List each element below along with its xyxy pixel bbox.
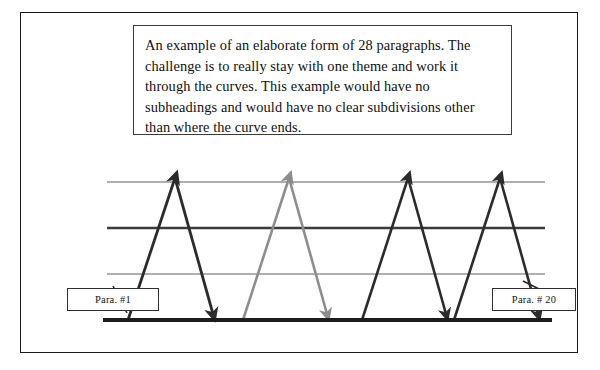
curve-2-group (243, 178, 327, 320)
guide-lines-group (107, 182, 545, 274)
curve-3-fall (408, 178, 446, 314)
curve-1-fall (175, 178, 213, 314)
callout-para-last: Para. # 20 (492, 288, 576, 311)
callout-right-label: Para. # 20 (512, 294, 556, 305)
curve-2-fall (289, 178, 327, 314)
curve-3-rise (362, 178, 408, 320)
caption-box: An example of an elaborate form of 28 pa… (133, 25, 512, 135)
curve-2-rise (243, 178, 289, 320)
caption-text: An example of an elaborate form of 28 pa… (145, 35, 500, 138)
curve-3-group (362, 178, 446, 320)
callout-para-first: Para. #1 (67, 288, 159, 311)
diagram-page: An example of an elaborate form of 28 pa… (0, 0, 600, 370)
callout-left-label: Para. #1 (95, 294, 131, 305)
